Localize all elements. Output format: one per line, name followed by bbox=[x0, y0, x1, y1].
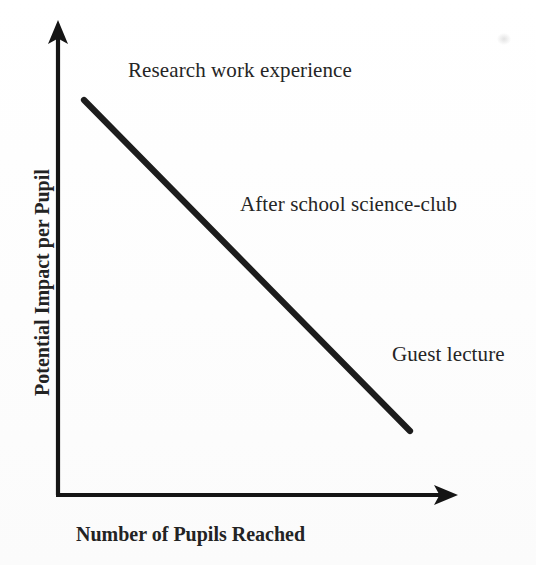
chart-canvas: Research work experience After school sc… bbox=[0, 0, 536, 565]
annotation-after-school-science-club: After school science-club bbox=[240, 194, 457, 215]
x-axis bbox=[56, 485, 458, 505]
axes-and-trendline bbox=[0, 0, 536, 565]
x-axis-title: Number of Pupils Reached bbox=[76, 524, 305, 544]
annotation-research-work-experience: Research work experience bbox=[128, 60, 352, 81]
trend-line bbox=[84, 100, 410, 431]
annotation-guest-lecture: Guest lecture bbox=[392, 344, 505, 365]
y-axis-title: Potential Impact per Pupil bbox=[32, 148, 52, 396]
